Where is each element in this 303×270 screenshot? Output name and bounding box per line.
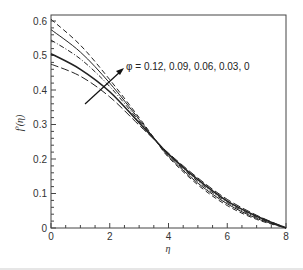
x-tick-label: 0	[48, 231, 54, 242]
series-curve	[51, 64, 286, 228]
chart: 0246800.10.20.30.40.50.6 φ = 0.12, 0.09,…	[0, 0, 303, 270]
y-axis-label: f′(η)	[14, 114, 26, 131]
x-tick-label: 4	[166, 231, 172, 242]
y-tick-label: 0.5	[33, 50, 47, 61]
x-axis-label: η	[166, 243, 171, 254]
x-tick-label: 6	[224, 231, 230, 242]
x-tick-label: 8	[283, 231, 289, 242]
data-curves	[51, 19, 286, 228]
plot-frame	[51, 15, 286, 228]
series-curve	[51, 19, 286, 228]
y-tick-label: 0	[41, 223, 47, 234]
x-tick-label: 2	[107, 231, 113, 242]
y-tick-label: 0.1	[33, 188, 47, 199]
y-tick-label: 0.4	[33, 85, 47, 96]
y-tick-label: 0.3	[33, 119, 47, 130]
y-tick-label: 0.6	[33, 16, 47, 27]
annotation-text: φ = 0.12, 0.09, 0.06, 0.03, 0	[126, 61, 250, 72]
plot-border	[51, 15, 286, 228]
tick-labels: 0246800.10.20.30.40.50.6	[33, 16, 289, 243]
y-tick-label: 0.2	[33, 154, 47, 165]
series-curve	[51, 30, 286, 228]
